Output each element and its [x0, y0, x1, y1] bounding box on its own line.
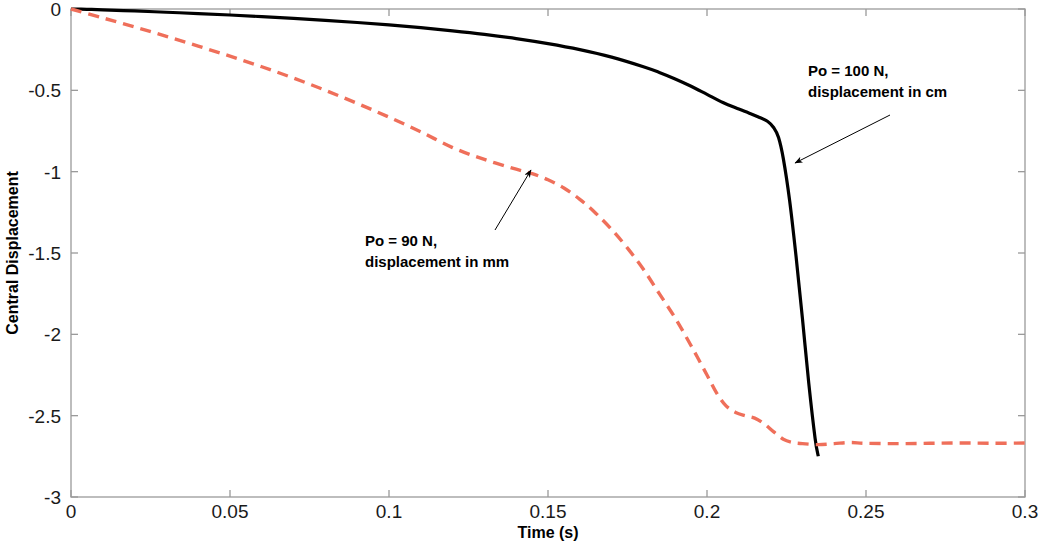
annot-100n-line2: displacement in cm	[808, 83, 947, 100]
y-tick-label-6: 0	[50, 0, 61, 20]
x-tick-label-3: 0.15	[530, 501, 567, 522]
annot-90n-line1: Po = 90 N,	[365, 232, 437, 249]
chart-figure: 00.050.10.150.20.250.3 -3-2.5-2-1.5-1-0.…	[0, 0, 1046, 545]
y-tick-label-4: -1	[44, 162, 61, 183]
x-tick-label-0: 0	[66, 501, 77, 522]
x-tick-label-5: 0.25	[848, 501, 885, 522]
x-tick-label-2: 0.1	[376, 501, 402, 522]
annot-100n-line1: Po = 100 N,	[808, 62, 888, 79]
y-axis-title: Central Displacement	[4, 171, 21, 335]
chart-background	[0, 0, 1046, 545]
y-tick-label-2: -2	[44, 324, 61, 345]
central-displacement-line-chart: 00.050.10.150.20.250.3 -3-2.5-2-1.5-1-0.…	[0, 0, 1046, 545]
x-tick-label-4: 0.2	[694, 501, 720, 522]
y-tick-label-0: -3	[44, 487, 61, 508]
x-axis-title: Time (s)	[517, 524, 578, 541]
x-tick-label-6: 0.3	[1012, 501, 1038, 522]
y-tick-label-3: -1.5	[28, 243, 61, 264]
y-tick-label-1: -2.5	[28, 406, 61, 427]
y-tick-label-5: -0.5	[28, 80, 61, 101]
x-tick-label-1: 0.05	[212, 501, 249, 522]
annot-90n-line2: displacement in mm	[365, 253, 509, 270]
